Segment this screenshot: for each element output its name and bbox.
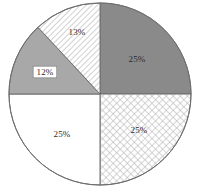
pie-slice-25-crosshatch[interactable] <box>100 94 191 185</box>
pie-chart-figure: 25% 25% 25% 12% 13% <box>0 0 200 189</box>
pie-slices <box>9 3 191 185</box>
pie-chart-canvas <box>0 0 200 189</box>
pie-slice-25-white[interactable] <box>9 94 100 185</box>
pie-slice-25-dark-gray[interactable] <box>100 3 191 94</box>
